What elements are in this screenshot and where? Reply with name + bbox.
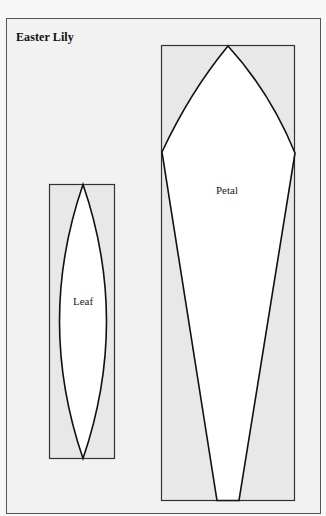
leaf-label: Leaf [73,295,93,307]
petal-label: Petal [216,184,238,196]
pattern-diagram [0,0,326,516]
